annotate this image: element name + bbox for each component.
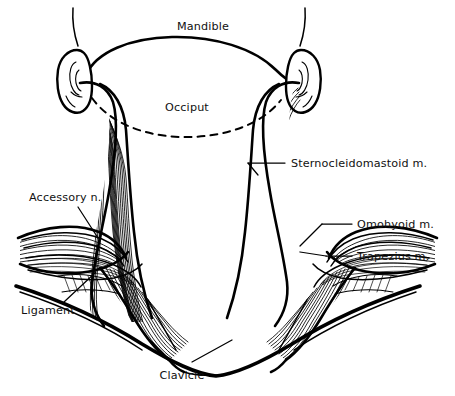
label-trapezius: Trapezius m. xyxy=(356,250,429,263)
label-mandible: Mandible xyxy=(177,20,229,33)
anatomy-diagram: Mandible Occiput Sternocleidomastoid m. … xyxy=(0,0,455,396)
label-sternocleidomastoid: Sternocleidomastoid m. xyxy=(291,157,427,170)
anatomy-figure: Mandible Occiput Sternocleidomastoid m. … xyxy=(0,0,455,396)
label-clavicle: Clavicle xyxy=(160,369,205,382)
label-omohyoid: Omohyoid m. xyxy=(357,218,434,231)
label-occiput: Occiput xyxy=(165,101,209,114)
label-ligament: Ligament xyxy=(21,304,75,317)
label-accessory-nerve: Accessory n. xyxy=(29,191,101,204)
